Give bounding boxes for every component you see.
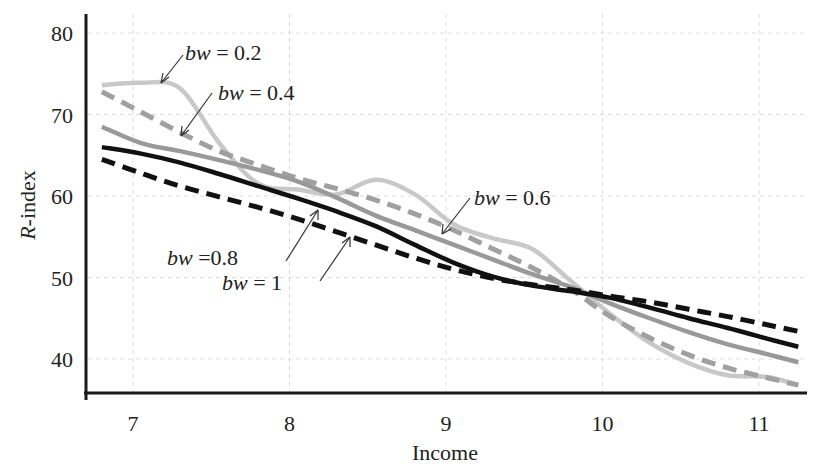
svg-text:bw = 0.6: bw = 0.6: [474, 185, 551, 210]
y-axis-title: R-index: [15, 170, 40, 241]
y-tick-label: 70: [51, 103, 73, 128]
svg-text:bw =0.8: bw =0.8: [167, 245, 238, 270]
annotation-bw-1: bw = 1: [222, 237, 350, 295]
r-index-vs-income-chart: 4050607080 7891011 Income R-index bw = 0…: [0, 0, 818, 474]
y-tick-label: 40: [51, 347, 73, 372]
x-tick-labels: 7891011: [128, 411, 770, 436]
svg-text:bw = 1: bw = 1: [222, 270, 282, 295]
series-lines: [102, 82, 798, 385]
y-tick-labels: 4050607080: [51, 21, 73, 372]
svg-text:bw = 0.2: bw = 0.2: [185, 40, 262, 65]
y-axis-title-italic: R: [15, 226, 40, 241]
x-axis-title: Income: [412, 440, 478, 465]
x-tick-label: 10: [592, 411, 614, 436]
x-tick-label: 7: [128, 411, 139, 436]
annotation-bw-0.2: bw = 0.2: [161, 40, 262, 83]
x-tick-label: 11: [748, 411, 769, 436]
x-tick-label: 9: [441, 411, 452, 436]
y-tick-label: 80: [51, 21, 73, 46]
y-tick-label: 50: [51, 266, 73, 291]
series-line-bw0_2: [102, 82, 798, 385]
x-tick-label: 8: [284, 411, 295, 436]
y-axis-title-rest: -index: [15, 170, 40, 226]
series-line-bw0_4: [102, 92, 798, 385]
svg-text:bw = 0.4: bw = 0.4: [218, 80, 295, 105]
y-tick-label: 60: [51, 184, 73, 209]
